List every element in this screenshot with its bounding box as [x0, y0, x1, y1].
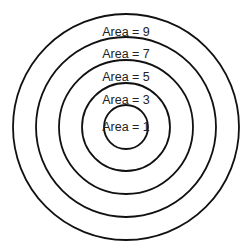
label-area-1: Area = 1 — [102, 120, 150, 134]
label-area-9: Area = 9 — [102, 25, 150, 39]
label-area-7: Area = 7 — [102, 47, 150, 61]
label-area-5: Area = 5 — [102, 70, 150, 84]
concentric-area-diagram: Area = 9 Area = 7 Area = 5 Area = 3 Area… — [0, 0, 252, 252]
label-area-3: Area = 3 — [102, 93, 150, 107]
